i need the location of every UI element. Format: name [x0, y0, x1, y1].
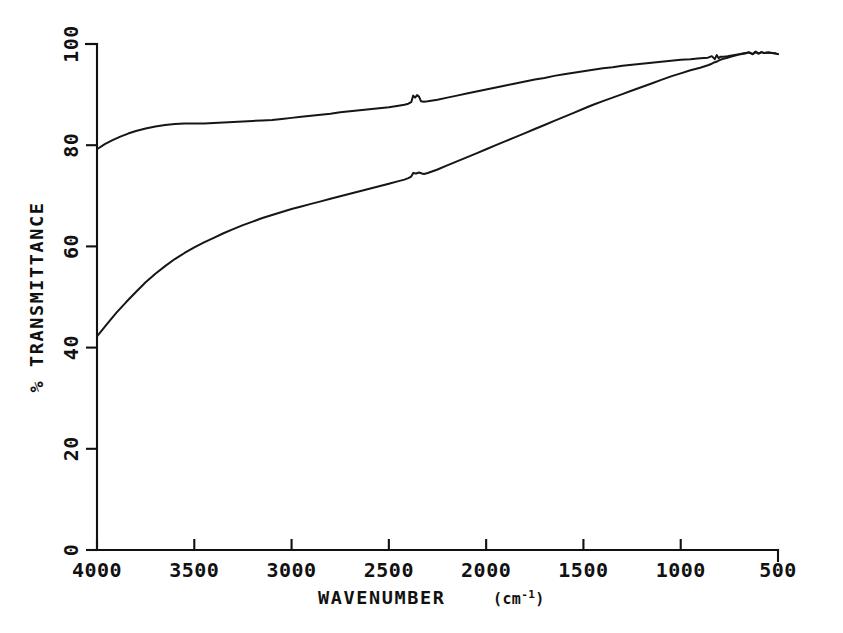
- y-tick-label: 60: [59, 234, 83, 259]
- x-tick-label: 1000: [656, 558, 706, 582]
- x-tick-label: 500: [759, 558, 797, 582]
- x-axis-title-text: WAVENUMBER: [318, 587, 445, 608]
- spectra-group: [97, 52, 778, 337]
- axes-group: [86, 44, 778, 561]
- x-tick-label: 3000: [266, 558, 316, 582]
- spectrum-trace-upper: [97, 52, 778, 150]
- transmittance-spectrum-chart: 020406080100 400035003000250020001500100…: [0, 0, 843, 633]
- y-tick-label: 40: [59, 335, 83, 360]
- axis-titles: % TRANSMITTANCE WAVENUMBER (cm-1): [26, 201, 545, 608]
- y-axis-title: % TRANSMITTANCE: [26, 201, 47, 392]
- x-axis-unit-exponent: -1: [521, 588, 535, 601]
- x-tick-label: 4000: [72, 558, 122, 582]
- x-axis-unit-open: (cm: [493, 590, 521, 608]
- y-tick-label: 20: [59, 436, 83, 461]
- x-tick-label: 3500: [169, 558, 219, 582]
- x-axis-title: WAVENUMBER: [318, 587, 445, 608]
- x-tick-group: 4000350030002500200015001000500: [72, 539, 797, 582]
- figure-canvas: 020406080100 400035003000250020001500100…: [0, 0, 843, 633]
- x-axis-unit-close: ): [535, 590, 544, 608]
- y-tick-label: 80: [59, 133, 83, 158]
- x-tick-label: 1500: [558, 558, 608, 582]
- x-tick-label: 2000: [461, 558, 511, 582]
- spectrum-trace-lower: [97, 52, 778, 336]
- y-tick-label: 0: [59, 544, 83, 557]
- x-axis-unit: (cm-1): [493, 588, 545, 608]
- y-tick-label: 100: [59, 25, 83, 63]
- y-tick-group: 020406080100: [59, 25, 98, 556]
- x-tick-label: 2500: [364, 558, 414, 582]
